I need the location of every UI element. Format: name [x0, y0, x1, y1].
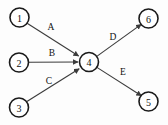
node-1-label: 1: [17, 13, 22, 24]
graph-diagram: A B C D E 1 2 3 4: [0, 0, 168, 125]
node-5[interactable]: 5: [139, 92, 158, 111]
node-2-label: 2: [17, 58, 22, 69]
node-1[interactable]: 1: [10, 8, 29, 27]
edge-C-line[interactable]: [27, 69, 79, 102]
node-3-label: 3: [17, 103, 22, 114]
edge-D-line[interactable]: [97, 24, 141, 56]
node-3[interactable]: 3: [10, 98, 29, 117]
node-6[interactable]: 6: [139, 9, 158, 28]
node-4-label: 4: [87, 57, 92, 68]
edge-label-A: A: [48, 22, 55, 32]
graph-canvas: A B C D E 1 2 3 4: [0, 0, 168, 125]
node-5-label: 5: [146, 97, 151, 108]
node-2[interactable]: 2: [10, 53, 29, 72]
node-6-label: 6: [146, 14, 151, 25]
edge-label-E: E: [120, 67, 126, 77]
node-4[interactable]: 4: [80, 53, 99, 72]
edge-label-B: B: [49, 48, 55, 58]
edge-label-C: C: [46, 76, 52, 86]
edge-label-D: D: [110, 32, 117, 42]
